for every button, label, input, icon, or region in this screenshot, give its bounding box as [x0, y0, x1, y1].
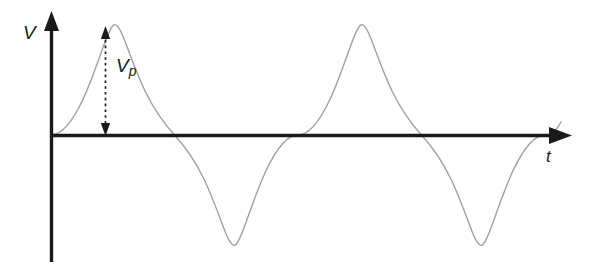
peak-voltage-symbol: V — [116, 55, 129, 76]
waveform-figure: V t Vp — [0, 0, 595, 277]
peak-voltage-label: Vp — [116, 56, 136, 78]
peak-voltage-subscript: p — [129, 63, 137, 79]
vertical-axis-arrowhead — [44, 11, 59, 31]
horizontal-axis-arrowhead — [549, 127, 572, 144]
vertical-axis-label: V — [23, 23, 36, 42]
horizontal-axis-label: t — [546, 148, 551, 165]
waveform-canvas — [0, 0, 595, 277]
